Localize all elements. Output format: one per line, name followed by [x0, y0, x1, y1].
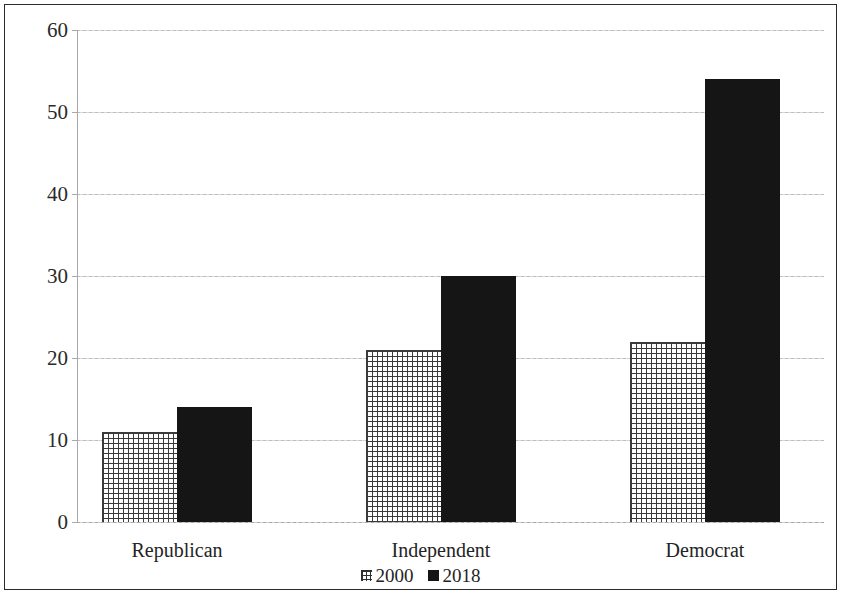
y-tick-mark-60 — [72, 30, 77, 31]
legend-item-2018: 2018 — [428, 566, 481, 585]
y-tick-mark-40 — [72, 194, 77, 195]
y-tick-mark-20 — [72, 358, 77, 359]
y-tick-label-60: 60 — [47, 20, 68, 41]
plot-area: 0102030405060 RepublicanIndependentDemoc… — [77, 30, 824, 522]
chart-legend: 20002018 — [5, 566, 836, 585]
legend-label-2000: 2000 — [376, 566, 414, 585]
y-tick-label-20: 20 — [47, 348, 68, 369]
x-axis-label-independent: Independent — [392, 540, 491, 560]
bar-democrat-2018 — [705, 79, 780, 522]
y-tick-label-30: 30 — [47, 266, 68, 287]
y-tick-mark-10 — [72, 440, 77, 441]
y-tick-label-50: 50 — [47, 102, 68, 123]
bar-republican-2018 — [177, 407, 252, 522]
y-tick-label-40: 40 — [47, 184, 68, 205]
gridline-60 — [77, 30, 824, 31]
y-tick-mark-0 — [72, 522, 77, 523]
bar-independent-2018 — [441, 276, 516, 522]
y-tick-label-0: 0 — [58, 512, 69, 533]
bar-independent-2000 — [366, 350, 441, 522]
y-axis-line — [77, 30, 78, 522]
x-axis-label-republican: Republican — [131, 540, 222, 560]
legend-item-2000: 2000 — [361, 566, 414, 585]
y-tick-label-10: 10 — [47, 430, 68, 451]
y-tick-mark-50 — [72, 112, 77, 113]
legend-label-2018: 2018 — [443, 566, 481, 585]
bar-republican-2000 — [102, 432, 177, 522]
legend-swatch-2000 — [361, 570, 372, 581]
y-tick-mark-30 — [72, 276, 77, 277]
x-axis-label-democrat: Democrat — [666, 540, 745, 560]
gridline-0 — [77, 522, 824, 523]
bar-democrat-2000 — [630, 342, 705, 522]
legend-swatch-2018 — [428, 570, 439, 581]
chart-figure: 0102030405060 RepublicanIndependentDemoc… — [4, 4, 837, 590]
